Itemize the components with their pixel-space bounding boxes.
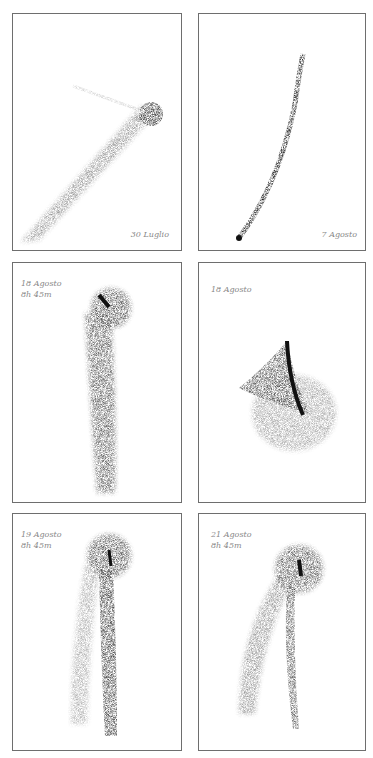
panel-18-agosto: 18 Agosto <box>198 262 366 503</box>
panel-label: 21 Agosto <box>211 530 252 540</box>
comet-drawing-4 <box>199 263 366 503</box>
comet-drawing-1 <box>13 14 182 251</box>
panel-18-agosto-845: 18 Agosto 8h 45m <box>12 262 182 503</box>
panel-label: 18 Agosto <box>211 285 252 295</box>
panel-label: 30 Luglio <box>131 230 169 240</box>
panel-time: 8h 45m <box>21 290 52 300</box>
panel-time: 8h 45m <box>211 541 242 551</box>
comet-drawing-2 <box>199 14 366 251</box>
panel-21-agosto: 21 Agosto 8h 45m <box>198 513 366 751</box>
panel-time: 8h 45m <box>21 541 52 551</box>
panel-label: 18 Agosto <box>21 279 62 289</box>
panel-label: 7 Agosto <box>322 230 357 240</box>
panel-7-agosto: 7 Agosto <box>198 13 366 251</box>
panel-30-luglio: 30 Luglio <box>12 13 182 251</box>
panel-19-agosto: 19 Agosto 8h 45m <box>12 513 182 751</box>
panel-label: 19 Agosto <box>21 530 62 540</box>
